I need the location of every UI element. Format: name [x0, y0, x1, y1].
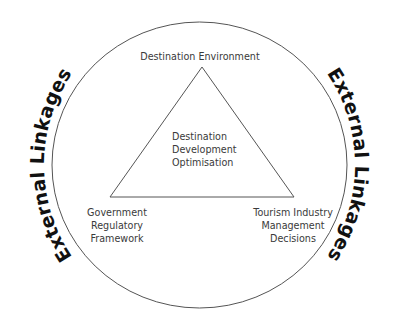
tourism-industry-management-decisions-label: Tourism Industry Management Decisions — [252, 207, 333, 244]
center-label-line: Optimisation — [172, 157, 233, 168]
bottom-left-label-line: Regulatory — [91, 220, 143, 231]
destination-model-diagram: External Linkages External Linkages Dest… — [0, 0, 397, 320]
destination-environment-label: Destination Environment — [140, 51, 260, 62]
bottom-left-label-line: Government — [87, 207, 147, 218]
center-label-line: Destination — [172, 131, 227, 142]
bottom-right-label-line: Decisions — [270, 233, 316, 244]
bottom-right-label-line: Management — [261, 220, 324, 231]
diagram-canvas: External Linkages External Linkages Dest… — [0, 0, 397, 320]
center-label: Destination Development Optimisation — [172, 131, 237, 168]
center-label-line: Development — [172, 144, 237, 155]
bottom-left-label-line: Framework — [90, 233, 144, 244]
external-linkages-right-label: External Linkages — [323, 64, 373, 267]
bottom-right-label-line: Tourism Industry — [252, 207, 333, 218]
government-regulatory-framework-label: Government Regulatory Framework — [87, 207, 147, 244]
external-linkages-left-label: External Linkages — [26, 63, 76, 266]
